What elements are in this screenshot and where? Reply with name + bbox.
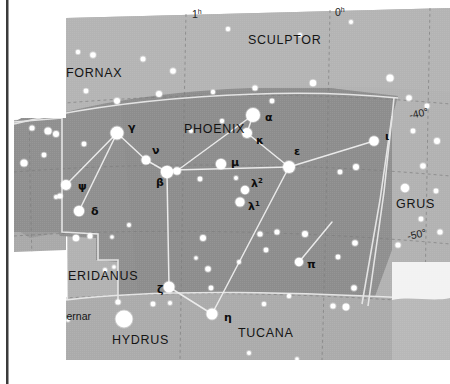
field-star (126, 222, 132, 228)
star-chart-page: αβγδεζηικλ2λ1μνπψ Achernar SCULPTORFORNA… (0, 0, 450, 384)
star-label-ψ: ψ (78, 180, 87, 193)
star-label-ν: ν (152, 144, 160, 157)
field-star (410, 128, 417, 135)
field-star (72, 234, 80, 242)
star-η[interactable] (206, 308, 219, 321)
star-label-ι: ι (385, 130, 389, 143)
field-star (140, 56, 147, 63)
field-star (115, 299, 122, 306)
field-star (53, 194, 59, 200)
star-label-α: α (265, 111, 273, 124)
field-star (433, 188, 440, 195)
star-label-μ: μ (231, 156, 239, 169)
star-label-ζ: ζ (157, 283, 164, 296)
field-star (437, 229, 444, 236)
field-star (233, 175, 239, 181)
field-star (236, 259, 242, 265)
field-star (352, 163, 360, 171)
field-star (400, 183, 410, 193)
field-star (109, 234, 114, 239)
star-ε[interactable] (282, 160, 296, 174)
field-star (167, 300, 173, 306)
field-star (257, 231, 264, 238)
field-star (29, 125, 36, 132)
field-star (89, 51, 96, 58)
star-γ[interactable] (110, 126, 125, 141)
field-star (52, 130, 60, 138)
constellation-label-fornax: FORNAX (66, 66, 122, 80)
field-star (113, 97, 121, 105)
field-star (286, 293, 292, 299)
star-label-κ: κ (256, 134, 264, 147)
field-star (155, 90, 163, 98)
star-π[interactable] (294, 257, 304, 267)
field-star (204, 265, 211, 272)
field-star (395, 242, 402, 249)
field-star (210, 89, 216, 95)
field-star (433, 137, 441, 145)
star-label-δ: δ (91, 205, 99, 218)
constellation-label-hydrus: HYDRUS (112, 333, 169, 347)
star-label-β: β (156, 176, 164, 189)
star-ι[interactable] (368, 135, 379, 146)
field-star (330, 303, 337, 310)
constellation-label-sculptor: SCULPTOR (248, 33, 321, 47)
star-δ[interactable] (73, 205, 85, 217)
field-star (83, 88, 90, 95)
field-star (199, 234, 207, 242)
field-star (81, 141, 88, 148)
star-λ[interactable] (235, 197, 246, 208)
field-star (208, 285, 215, 292)
field-star (225, 26, 231, 32)
field-star (246, 350, 252, 356)
star-α[interactable] (245, 107, 261, 123)
page-edge-shadow (6, 0, 9, 384)
field-star (193, 255, 198, 260)
star-chart-canvas: αβγδεζηικλ2λ1μνπψ Achernar SCULPTORFORNA… (0, 0, 450, 384)
field-star (309, 79, 317, 87)
field-star (386, 74, 395, 83)
star-ν[interactable] (141, 155, 152, 166)
field-star (419, 162, 426, 169)
field-star (261, 301, 267, 307)
star-label-ε: ε (294, 145, 300, 158)
field-star (41, 152, 48, 159)
constellation-label-tucana: TUCANA (238, 326, 294, 340)
field-star (263, 247, 270, 254)
field-star (348, 19, 354, 25)
field-star (351, 239, 358, 246)
field-star (335, 254, 342, 261)
star-label-γ: γ (128, 121, 136, 134)
field-star (75, 49, 81, 55)
field-star (405, 94, 412, 101)
star-μ[interactable] (215, 158, 227, 170)
constellation-label-eridanus: ERIDANUS (68, 269, 138, 283)
field-star (350, 284, 357, 291)
constellation-label-phoenix: PHOENIX (184, 122, 245, 136)
constellation-label-grus: GRUS (396, 197, 435, 211)
star-achernar[interactable] (115, 310, 134, 329)
halftone-texture (0, 0, 450, 384)
star-ζ[interactable] (163, 281, 176, 294)
field-star (269, 98, 276, 105)
field-star (87, 233, 94, 240)
field-star (418, 216, 425, 223)
field-star (252, 85, 259, 92)
star-ψ[interactable] (60, 179, 72, 191)
star-label-π: π (307, 258, 316, 271)
star-λ[interactable] (240, 185, 250, 195)
field-star (20, 159, 29, 168)
field-star (274, 229, 281, 236)
field-star (337, 169, 344, 176)
field-star (150, 301, 157, 308)
field-star (301, 230, 309, 238)
field-star (44, 127, 53, 136)
star-label-η: η (224, 311, 232, 324)
field-star (169, 67, 176, 74)
field-star (197, 176, 204, 183)
field-star (342, 303, 351, 312)
